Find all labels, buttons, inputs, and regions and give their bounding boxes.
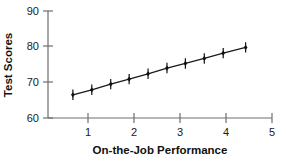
- x-tick-label-4: 4: [223, 126, 229, 138]
- data-point[interactable]: [165, 63, 169, 73]
- data-point[interactable]: [71, 90, 75, 100]
- x-tick-label-5: 5: [269, 126, 275, 138]
- data-point[interactable]: [90, 85, 94, 95]
- y-tick-label-70: 70: [27, 76, 39, 88]
- chart-figure: 90 80 70 60 1 2 3 4 5 On-the-Job Perform…: [0, 0, 286, 161]
- scatter-plot-svg: 90 80 70 60 1 2 3 4 5 On-the-Job Perform…: [0, 0, 286, 161]
- data-series-layer: [71, 42, 247, 100]
- x-axis-title: On-the-Job Performance: [93, 144, 228, 156]
- y-tick-label-90: 90: [27, 5, 39, 17]
- series-line-0: [73, 47, 246, 94]
- y-tick-label-80: 80: [27, 40, 39, 52]
- data-point[interactable]: [146, 69, 150, 79]
- x-tick-label-3: 3: [177, 126, 183, 138]
- x-tick-label-1: 1: [85, 126, 91, 138]
- x-tick-label-2: 2: [131, 126, 137, 138]
- data-point[interactable]: [221, 48, 225, 58]
- data-point[interactable]: [244, 42, 248, 52]
- y-axis-title: Test Scores: [2, 33, 14, 97]
- data-point[interactable]: [202, 53, 206, 63]
- data-point[interactable]: [184, 58, 188, 68]
- data-point[interactable]: [127, 74, 131, 84]
- y-tick-label-60: 60: [27, 112, 39, 124]
- data-point[interactable]: [109, 79, 113, 89]
